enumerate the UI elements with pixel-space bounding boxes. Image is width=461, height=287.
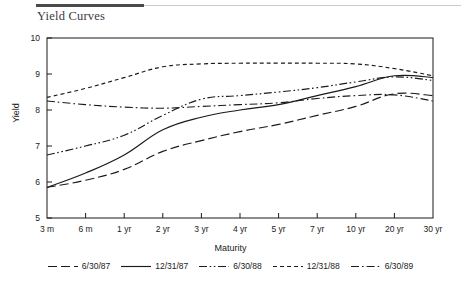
- x-axis-tick-label: 20 yr: [385, 224, 404, 234]
- x-axis-tick-label: 5 yr: [272, 224, 286, 234]
- legend-line-swatch: [273, 262, 303, 271]
- legend-item-12-31-87[interactable]: 12/31/87: [121, 261, 188, 271]
- x-axis-tick-label: 3 m: [40, 224, 54, 234]
- header-divider-dark-segment: [36, 4, 144, 7]
- y-axis-tick-label: 10: [8, 33, 40, 43]
- y-axis-tick-label: 9: [8, 69, 40, 79]
- legend-line-swatch: [121, 262, 151, 271]
- y-axis-title: Yield: [11, 83, 21, 143]
- header-divider-light-segment: [144, 5, 461, 6]
- x-axis-tick-label: 4 yr: [233, 224, 247, 234]
- legend-label: 12/31/87: [155, 261, 188, 271]
- y-axis-ticks: [47, 38, 52, 218]
- x-axis-tick-label: 2 yr: [156, 224, 170, 234]
- page-title: Yield Curves: [37, 9, 105, 24]
- x-axis-tick-label: 3 yr: [194, 224, 208, 234]
- legend-line-swatch: [199, 262, 229, 271]
- series-line-6-30-87: [47, 93, 433, 187]
- legend-item-12-31-88[interactable]: 12/31/88: [273, 261, 340, 271]
- x-axis-tick-label: 1 yr: [117, 224, 131, 234]
- x-axis-title: Maturity: [0, 243, 461, 253]
- data-series-group: [47, 63, 433, 187]
- legend-item-6-30-88[interactable]: 6/30/88: [199, 261, 261, 271]
- x-axis-ticks: [86, 213, 395, 218]
- legend-label: 6/30/88: [233, 261, 261, 271]
- header-divider: [36, 4, 461, 7]
- x-axis-tick-label: 7 yr: [310, 224, 324, 234]
- x-axis-tick-label: 6 m: [79, 224, 93, 234]
- chart-legend: 6/30/8712/31/876/30/8812/31/886/30/89: [0, 261, 461, 271]
- series-line-6-30-88: [47, 77, 433, 155]
- plot-border: [47, 38, 433, 218]
- plot-canvas: [0, 30, 461, 230]
- legend-line-swatch: [351, 262, 381, 271]
- plot-frame: [47, 38, 433, 218]
- y-axis-tick-label: 6: [8, 177, 40, 187]
- x-axis-tick-label: 10 yr: [346, 224, 365, 234]
- legend-label: 6/30/89: [385, 261, 413, 271]
- legend-item-6-30-89[interactable]: 6/30/89: [351, 261, 413, 271]
- legend-line-swatch: [48, 262, 78, 271]
- x-axis-tick-label: 30 yr: [424, 224, 443, 234]
- legend-label: 6/30/87: [82, 261, 110, 271]
- yield-curves-chart: 5678910: [0, 30, 461, 230]
- y-axis-tick-label: 5: [8, 213, 40, 223]
- legend-item-6-30-87[interactable]: 6/30/87: [48, 261, 110, 271]
- series-line-6-30-89: [47, 94, 433, 108]
- legend-label: 12/31/88: [307, 261, 340, 271]
